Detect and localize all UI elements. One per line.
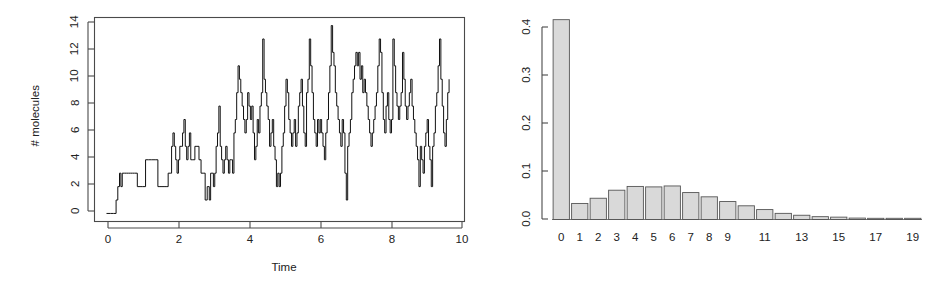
x-tick-label: 8 <box>382 234 402 246</box>
histogram-bar <box>738 206 754 220</box>
y-tick-label: 8 <box>70 97 82 109</box>
y-tick-label: 4 <box>70 151 82 163</box>
figure-root: 14 12 10 8 6 4 2 0 # molecules 0 2 4 6 8… <box>0 0 936 287</box>
x-tick-label: 8 <box>699 232 719 244</box>
histogram-bar <box>664 186 680 220</box>
x-tick-label: 10 <box>452 234 472 246</box>
y-tick-label: 6 <box>70 124 82 136</box>
x-tick-label: 17 <box>866 232 886 244</box>
x-tick-label: 6 <box>311 234 331 246</box>
histogram-bar <box>646 187 662 220</box>
histogram-bar <box>812 217 828 220</box>
y-tick-label: 12 <box>69 40 81 58</box>
x-tick-label: 2 <box>588 232 608 244</box>
histogram-bars <box>553 20 921 220</box>
x-tick-label: 19 <box>903 232 923 244</box>
x-tick-label: 3 <box>607 232 627 244</box>
y-tick-label: 0 <box>70 205 82 217</box>
distribution-panel: 0.4 0.3 0.2 0.1 0.0 01234567891113151719 <box>470 0 936 287</box>
y-tick-label: 14 <box>69 13 81 31</box>
trajectory-panel: 14 12 10 8 6 4 2 0 # molecules 0 2 4 6 8… <box>0 0 470 287</box>
y-tick-label: 0.3 <box>521 64 533 86</box>
histogram-bar <box>757 210 773 220</box>
y-tick-label: 10 <box>69 67 81 85</box>
y-tick-label: 0.2 <box>521 112 533 134</box>
x-tick-label: 6 <box>662 232 682 244</box>
x-axis-ticks <box>108 222 462 229</box>
y-axis-ticks <box>88 22 95 211</box>
histogram-bar <box>683 193 699 220</box>
x-tick-label: 7 <box>681 232 701 244</box>
y-tick-label: 0.4 <box>521 16 533 38</box>
y-axis-title: # molecules <box>30 76 42 156</box>
histogram-bar <box>609 190 625 219</box>
x-tick-label: 4 <box>625 232 645 244</box>
x-tick-label: 2 <box>169 234 189 246</box>
trajectory-step-line <box>106 26 449 214</box>
histogram-bar <box>794 215 810 219</box>
distribution-plot-svg <box>470 0 936 287</box>
y-tick-label: 0.1 <box>521 160 533 182</box>
y-tick-label: 0.0 <box>521 208 533 230</box>
x-tick-label: 15 <box>829 232 849 244</box>
histogram-bar <box>701 197 717 220</box>
x-tick-label: 5 <box>644 232 664 244</box>
y-axis-ticks <box>542 27 548 219</box>
plot-frame <box>95 18 465 222</box>
histogram-bar <box>720 202 736 220</box>
x-tick-label: 0 <box>551 232 571 244</box>
x-tick-label: 11 <box>755 232 775 244</box>
histogram-bar <box>553 20 569 220</box>
y-tick-label: 2 <box>70 178 82 190</box>
x-tick-label: 1 <box>570 232 590 244</box>
x-tick-label: 9 <box>718 232 738 244</box>
histogram-bar <box>572 203 588 219</box>
histogram-bar <box>590 198 606 219</box>
x-tick-label: 4 <box>240 234 260 246</box>
histogram-bar <box>627 186 643 219</box>
histogram-bar <box>775 213 791 219</box>
x-tick-label: 0 <box>98 234 118 246</box>
x-axis-title: Time <box>244 262 324 274</box>
x-tick-label: 13 <box>792 232 812 244</box>
